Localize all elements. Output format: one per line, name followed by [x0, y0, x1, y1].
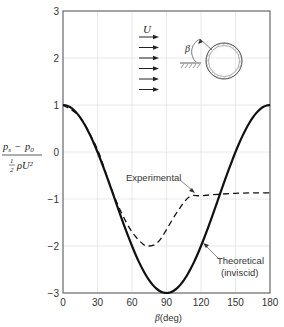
x-axis-label: β(deg) — [154, 312, 182, 323]
y-tick-label: 0 — [53, 147, 59, 158]
y-axis-label: ps−p0 1 2 ρU² — [2, 141, 42, 174]
svg-text:Experimental: Experimental — [126, 172, 181, 183]
x-tick-label: 30 — [92, 297, 104, 308]
pressure-distribution-chart: 0306090120150180 3210−1−2−3 ps−p0 1 2 ρU… — [0, 0, 284, 327]
cylinder-flow-inset: U β — [139, 23, 242, 92]
svg-text:ρU²: ρU² — [16, 160, 34, 171]
svg-text:β(deg): β(deg) — [154, 312, 182, 323]
y-tick-label: −2 — [48, 241, 60, 252]
annotation-theoretical: Theoretical (inviscid) — [203, 243, 264, 278]
x-tick-label: 90 — [161, 297, 173, 308]
ground-hatch-icon — [181, 64, 200, 68]
x-tick-label: 0 — [60, 297, 66, 308]
svg-text:2: 2 — [10, 166, 14, 174]
svg-text:Theoretical: Theoretical — [217, 255, 264, 266]
svg-text:1: 1 — [10, 157, 14, 165]
beta-label: β — [184, 43, 190, 54]
svg-text:ps−p0: ps−p0 — [2, 141, 34, 154]
x-tick-label: 120 — [193, 297, 210, 308]
y-tick-label: −1 — [48, 194, 60, 205]
x-axis-ticks: 0306090120150180 — [60, 297, 279, 308]
flow-arrows-icon — [139, 35, 159, 92]
y-tick-label: 2 — [53, 53, 59, 64]
flow-velocity-label: U — [143, 23, 152, 35]
x-tick-label: 60 — [126, 297, 138, 308]
y-axis-ticks: 3210−1−2−3 — [48, 6, 60, 299]
svg-text:(inviscid): (inviscid) — [221, 267, 258, 278]
x-tick-label: 150 — [227, 297, 244, 308]
y-tick-label: 3 — [53, 6, 59, 17]
y-tick-label: 1 — [53, 100, 59, 111]
x-tick-label: 180 — [262, 297, 279, 308]
annotation-experimental: Experimental — [126, 172, 195, 193]
y-tick-label: −3 — [48, 288, 60, 299]
